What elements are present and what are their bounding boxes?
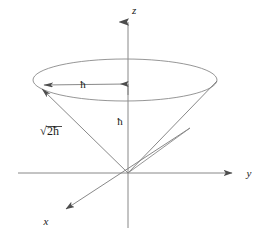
angular-momentum-cone-figure: z y x ħ ħ √ 2ħ <box>0 0 268 239</box>
z-axis-label: z <box>131 4 137 16</box>
cone-edge-right <box>128 81 217 173</box>
slant-label-radicand: 2ħ <box>47 124 59 138</box>
slant-label-sqrt2-hbar: √ 2ħ <box>40 124 62 138</box>
origin-extra-ray <box>128 128 190 173</box>
height-label-hbar: ħ <box>117 115 123 127</box>
x-axis-label: x <box>43 215 49 227</box>
radius-label-hbar: ħ <box>80 78 86 90</box>
y-axis-label: y <box>246 167 252 179</box>
slant-label-text: √ <box>40 124 47 138</box>
diagram-canvas: z y x ħ ħ √ 2ħ <box>0 0 268 239</box>
cone-rim-ellipse <box>33 59 217 101</box>
